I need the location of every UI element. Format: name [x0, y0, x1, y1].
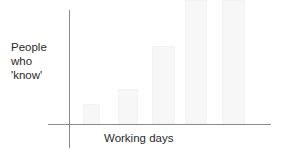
bar-5 [222, 0, 245, 124]
bar-2 [118, 89, 138, 124]
y-axis-label-line: People [11, 40, 61, 54]
bar-4 [185, 0, 207, 124]
chart: People who 'know' Working days [0, 0, 282, 156]
y-axis-label-line: 'know' [11, 68, 61, 82]
y-axis-label: People who 'know' [11, 40, 61, 82]
x-axis-line [48, 124, 271, 125]
x-axis-label: Working days [104, 131, 173, 145]
bar-3 [152, 46, 175, 124]
y-axis-line [69, 10, 70, 148]
y-axis-label-line: who [11, 54, 61, 68]
bar-1 [83, 104, 100, 124]
